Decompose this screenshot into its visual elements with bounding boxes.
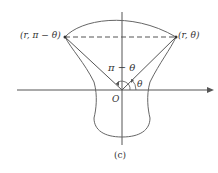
polar-curve bbox=[65, 20, 176, 137]
origin-label: O bbox=[112, 94, 119, 104]
angle-acute-label: θ bbox=[137, 79, 142, 89]
figure-caption: (c) bbox=[114, 150, 126, 160]
angle-arc-acute bbox=[132, 80, 136, 90]
point-left bbox=[64, 36, 67, 39]
x-axis-arrow-icon bbox=[207, 87, 214, 93]
angle-obtuse-label: π − θ bbox=[108, 62, 135, 73]
point-right-label: (r, θ) bbox=[178, 30, 199, 40]
polar-diagram bbox=[0, 0, 218, 173]
point-left-label: (r, π − θ) bbox=[20, 30, 61, 40]
